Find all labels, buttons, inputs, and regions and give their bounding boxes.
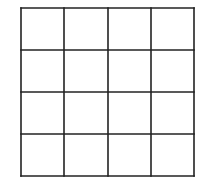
four-by-four-grid — [0, 0, 208, 191]
grid-diagram — [0, 0, 208, 191]
